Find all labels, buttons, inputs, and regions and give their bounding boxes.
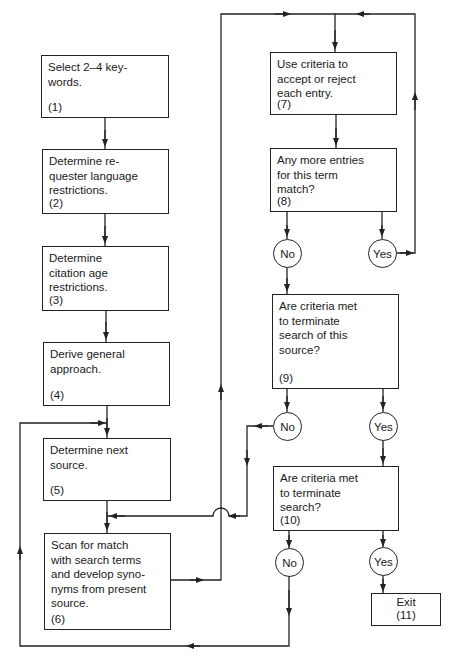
decision-9-no: No [273, 412, 302, 441]
decision-10-no: No [275, 548, 304, 577]
decision-label: No [280, 248, 295, 260]
node-text: Select 2–4 key- words. [48, 60, 168, 89]
exit-label: Exit [372, 596, 440, 609]
edge-8-yes-to-7 [335, 14, 415, 253]
node-3-citation-age: Determine citation age restrictions. (3) [42, 246, 169, 311]
node-9-terminate-source: Are criteria met to terminate search of … [272, 294, 399, 389]
node-number: (1) [48, 100, 62, 115]
node-text: Determine citation age restrictions. [49, 251, 168, 295]
node-5-next-source: Determine next source. (5) [43, 438, 171, 501]
node-6-scan-for-match: Scan for match with search terms and dev… [44, 533, 171, 630]
node-number: (5) [50, 483, 64, 498]
decision-label: Yes [374, 421, 393, 433]
node-number: (9) [279, 371, 293, 386]
decision-9-yes: Yes [369, 412, 398, 441]
decision-label: Yes [374, 556, 393, 568]
decision-label: No [282, 557, 297, 569]
node-number: (6) [51, 612, 65, 627]
node-text: Determine re- quester language restricti… [49, 154, 168, 198]
node-number: (8) [277, 194, 291, 209]
node-2-language-restrictions: Determine re- quester language restricti… [42, 149, 169, 214]
node-text: Scan for match with search terms and dev… [51, 538, 170, 611]
decision-label: No [280, 421, 295, 433]
node-number: (10) [280, 513, 300, 528]
node-number: (7) [277, 97, 291, 112]
node-text: Are criteria met to terminate search of … [279, 299, 398, 357]
node-text: Use criteria to accept or reject each en… [277, 57, 396, 101]
decision-8-no: No [273, 239, 302, 268]
node-number: (4) [50, 388, 64, 403]
decision-10-yes: Yes [369, 547, 398, 576]
decision-label: Yes [373, 248, 392, 260]
node-text: Determine next source. [50, 443, 170, 472]
node-1-select-keywords: Select 2–4 key- words. (1) [41, 55, 169, 118]
node-number: (11) [372, 609, 440, 622]
node-number: (2) [49, 196, 63, 211]
node-text: Any more entries for this term match? [277, 153, 396, 197]
node-8-more-entries: Any more entries for this term match? (8… [270, 148, 397, 212]
decision-8-yes: Yes [368, 239, 397, 268]
node-4-general-approach: Derive general approach. (4) [43, 342, 170, 406]
node-text: Are criteria met to terminate search? [280, 471, 398, 515]
node-10-terminate-search: Are criteria met to terminate search? (1… [273, 466, 399, 531]
node-7-use-criteria: Use criteria to accept or reject each en… [270, 52, 397, 115]
node-number: (3) [49, 293, 63, 308]
node-11-exit: Exit (11) [371, 593, 441, 626]
node-text: Derive general approach. [50, 347, 169, 376]
